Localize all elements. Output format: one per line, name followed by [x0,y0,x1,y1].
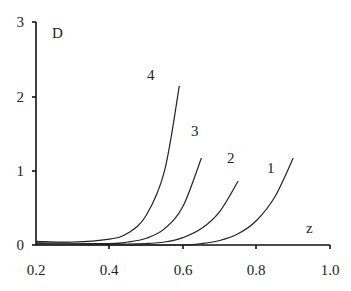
curve-label-1: 1 [267,160,275,176]
curves [36,86,293,245]
curve-4 [36,86,179,242]
x-tick-0.6: 0.6 [174,262,193,278]
curve-3 [36,158,201,244]
curve-label-2: 2 [227,150,235,166]
curve-label-4: 4 [147,67,155,83]
curve-2 [36,181,238,244]
x-axis-label: z [306,220,313,236]
axes [32,22,330,249]
y-axis-label: D [52,25,63,41]
y-tick-2: 2 [17,89,25,105]
y-tick-0: 0 [17,237,25,253]
x-tick-0.4: 0.4 [100,262,119,278]
y-tick-1: 1 [17,163,25,179]
x-tick-0.2: 0.2 [27,262,46,278]
y-tick-3: 3 [17,14,25,30]
line-chart: 0 1 2 3 0.2 0.4 0.6 0.8 1.0 D z 4 3 2 1 [0,0,351,291]
curve-label-3: 3 [191,123,199,139]
x-tick-0.8: 0.8 [247,262,266,278]
x-tick-1.0: 1.0 [321,262,340,278]
